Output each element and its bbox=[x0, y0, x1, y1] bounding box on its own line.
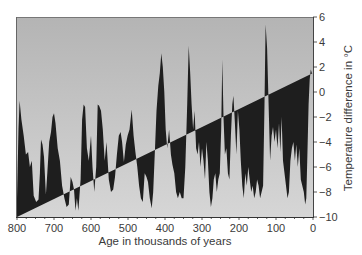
y-tick-label: −6 bbox=[319, 161, 332, 173]
x-tick-label: 500 bbox=[119, 222, 137, 234]
x-tick-label: 100 bbox=[267, 222, 285, 234]
x-tick-label: 200 bbox=[230, 222, 248, 234]
x-axis-ticks: 8007006005004003002001000 bbox=[8, 217, 316, 234]
x-tick-label: 400 bbox=[156, 222, 174, 234]
x-tick-label: 0 bbox=[310, 222, 316, 234]
y-tick-label: −10 bbox=[319, 211, 338, 223]
x-tick-label: 800 bbox=[8, 222, 26, 234]
y-tick-label: 6 bbox=[319, 11, 325, 23]
y-axis-title: Temperature difference in °C bbox=[342, 45, 354, 191]
y-tick-label: −4 bbox=[319, 136, 332, 148]
y-tick-label: 4 bbox=[319, 36, 325, 48]
x-tick-label: 600 bbox=[82, 222, 100, 234]
x-tick-label: 300 bbox=[193, 222, 211, 234]
x-tick-label: 700 bbox=[45, 222, 63, 234]
y-tick-label: −8 bbox=[319, 186, 332, 198]
y-axis-ticks: 6420−2−4−6−8−10 bbox=[313, 11, 338, 223]
y-tick-label: 0 bbox=[319, 86, 325, 98]
x-axis-title: Age in thousands of years bbox=[99, 235, 232, 247]
y-tick-label: −2 bbox=[319, 111, 332, 123]
y-tick-label: 2 bbox=[319, 61, 325, 73]
temperature-chart: 8007006005004003002001000 6420−2−4−6−8−1… bbox=[0, 0, 362, 255]
